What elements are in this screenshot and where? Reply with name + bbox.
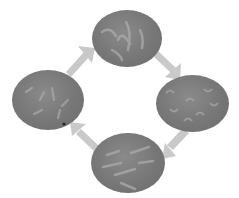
micrograph-right — [156, 75, 229, 132]
cycle-diagram — [0, 0, 239, 198]
scattered-cells-icon — [12, 70, 84, 130]
elongated-cells-icon — [92, 10, 162, 67]
micrograph-bottom — [91, 133, 165, 193]
micrograph-top — [92, 10, 162, 67]
arrow-right-to-bottom — [162, 128, 189, 159]
curved-cells-icon — [156, 75, 229, 132]
micrograph-left — [12, 70, 84, 130]
rod-cells-icon — [91, 133, 165, 193]
